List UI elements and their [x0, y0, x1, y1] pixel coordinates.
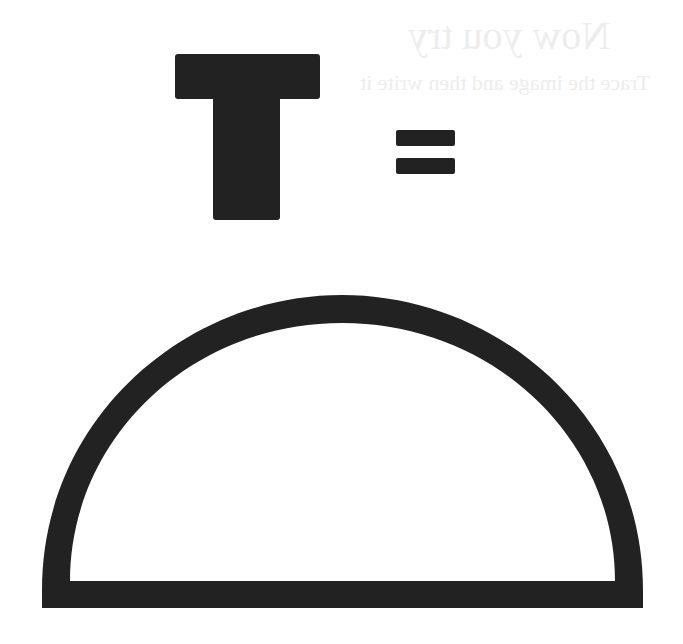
worksheet-canvas: [0, 0, 683, 644]
semicircle-outline-icon: [42, 295, 643, 608]
letter-t-icon: [175, 54, 320, 220]
equals-sign-icon: [396, 130, 455, 174]
